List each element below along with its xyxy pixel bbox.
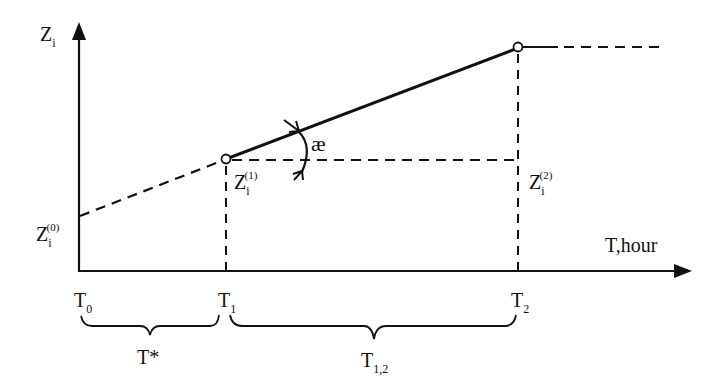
y-label-main: Z <box>40 23 52 45</box>
t1-main: T <box>218 289 230 311</box>
x-axis-label: T,hour <box>605 235 657 255</box>
measured-segment <box>226 48 518 159</box>
t0-main: T <box>74 289 86 311</box>
diagram-canvas <box>0 0 721 388</box>
z2-sup: (2) <box>540 169 553 181</box>
y-axis-label: Zi <box>40 24 56 49</box>
z1-sup: (1) <box>245 169 258 181</box>
tick-t2: T2 <box>511 290 529 315</box>
interval-t-star: T* <box>137 347 159 367</box>
tick-t0: T0 <box>74 290 92 315</box>
y-axis-arrow-icon <box>72 22 86 40</box>
x-axis <box>78 264 692 278</box>
z2-label: Zi(2) <box>529 170 552 197</box>
brace-t12 <box>230 315 516 339</box>
point-z1 <box>222 155 231 164</box>
z1-label: Zi(1) <box>234 170 257 197</box>
point-z2 <box>514 43 523 52</box>
t0-sub: 0 <box>86 302 92 316</box>
z1-sub: i <box>246 184 249 198</box>
y-axis <box>72 22 86 272</box>
z2-sub: i <box>541 184 544 198</box>
angle-symbol: æ <box>311 133 326 155</box>
z0-sub: i <box>48 236 51 250</box>
x-axis-arrow-icon <box>674 264 692 278</box>
z0-sup: (0) <box>47 221 60 233</box>
t12-main: T <box>361 349 373 371</box>
interval-t12: T1,2 <box>361 350 388 375</box>
extrapolation-line <box>80 160 224 216</box>
t1-sub: 1 <box>230 302 236 316</box>
t12-sub: 1,2 <box>373 362 388 376</box>
y-label-sub: i <box>52 36 55 50</box>
brace-t-star <box>81 315 219 335</box>
tick-t1: T1 <box>218 290 236 315</box>
t2-sub: 2 <box>523 302 529 316</box>
t2-main: T <box>511 289 523 311</box>
z0-label: Zi(0) <box>36 222 59 249</box>
